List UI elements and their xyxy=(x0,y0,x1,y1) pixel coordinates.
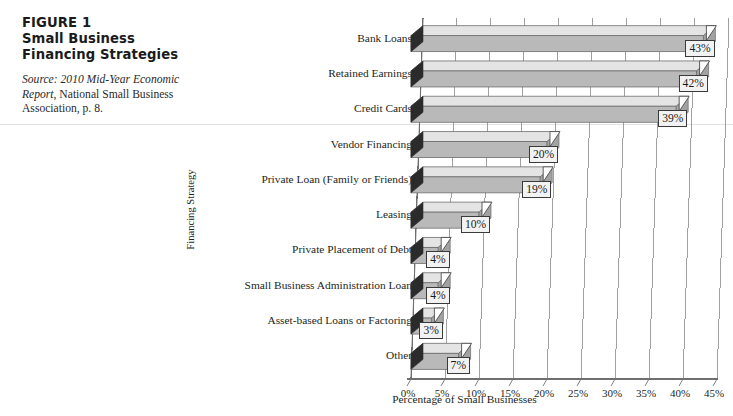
bar-value-label: 3% xyxy=(419,322,442,339)
x-axis-tick-label: 25% xyxy=(568,387,588,399)
bar-value-label: 4% xyxy=(426,251,449,268)
bar-value-label: 7% xyxy=(447,357,470,374)
y-axis-title: Financing Strategy xyxy=(185,169,196,249)
bar-value-label: 10% xyxy=(461,216,490,233)
x-tick xyxy=(645,379,649,386)
x-tick xyxy=(679,379,683,386)
bar-value-label: 20% xyxy=(529,146,558,163)
gridline xyxy=(717,18,729,379)
x-tick xyxy=(713,379,717,386)
x-axis-tick-label: 0% xyxy=(401,387,416,399)
x-axis-tick-label: 5% xyxy=(435,387,450,399)
figure-root: FIGURE 1 Small Business Financing Strate… xyxy=(0,0,733,416)
bar-value-label: 19% xyxy=(522,181,551,198)
plot-area xyxy=(196,8,733,416)
bar-chart: Financing Strategy Bank LoansRetained Ea… xyxy=(196,8,733,416)
x-axis-tick-label: 20% xyxy=(534,387,554,399)
x-axis-tick-label: 45% xyxy=(704,387,724,399)
x-tick xyxy=(475,379,479,386)
figure-title: Small Business Financing Strategies xyxy=(22,31,212,62)
figure-number: FIGURE 1 xyxy=(22,15,91,30)
bar-value-label: 39% xyxy=(658,110,687,127)
bar-group xyxy=(411,96,688,122)
bar-group xyxy=(411,61,709,87)
figure-caption: FIGURE 1 Small Business Financing Strate… xyxy=(22,13,212,117)
bar-value-label: 42% xyxy=(679,75,708,92)
x-axis-tick-label: 15% xyxy=(500,387,520,399)
x-axis-tick-label: 35% xyxy=(636,387,656,399)
x-axis-tick-label: 10% xyxy=(466,387,486,399)
x-tick xyxy=(611,379,615,386)
bar-group xyxy=(411,26,715,52)
bar-value-label: 4% xyxy=(426,287,449,304)
x-tick xyxy=(577,379,581,386)
x-tick xyxy=(407,379,411,386)
figure-source: Source: 2010 Mid-Year Economic Report, N… xyxy=(22,73,212,117)
x-axis-tick-label: 40% xyxy=(670,387,690,399)
x-tick xyxy=(543,379,547,386)
source-prefix: Source: xyxy=(22,73,58,86)
x-tick xyxy=(441,379,445,386)
x-axis-tick-label: 30% xyxy=(602,387,622,399)
bar-value-label: 43% xyxy=(685,40,714,57)
x-tick xyxy=(509,379,513,386)
